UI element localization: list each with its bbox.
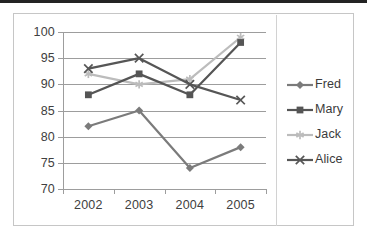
x-axis-tick [63,189,64,194]
x-axis-tick [165,189,166,194]
chart-screenshot: 100959085807570 2002200320042005 FredMar… [0,0,367,238]
chart-frame: 100959085807570 2002200320042005 FredMar… [13,13,354,226]
y-axis-tick-label: 85 [41,105,55,117]
legend-marker-icon [286,103,314,117]
y-axis-tick-labels: 100959085807570 [14,32,55,189]
series-line-mary [88,42,240,94]
legend-label: Mary [315,103,343,116]
legend-label: Jack [315,128,341,141]
plot-wrapper: 100959085807570 2002200320042005 FredMar… [14,14,355,227]
data-series-layer [63,32,266,189]
data-point-marker-diamond [84,122,92,130]
legend-label: Alice [315,153,343,166]
legend-item-mary[interactable]: Mary [286,97,352,122]
legend-item-fred[interactable]: Fred [286,72,352,97]
y-axis-tick-label: 100 [34,26,55,38]
x-axis-tick-labels: 2002200320042005 [63,198,266,216]
data-point-marker-square [186,91,193,98]
x-axis-tick-label: 2004 [176,198,205,212]
legend-item-alice[interactable]: Alice [286,147,352,172]
y-axis-tick-label: 90 [41,78,55,90]
y-axis-tick-label: 95 [41,52,55,64]
y-axis-tick-label: 70 [41,183,55,195]
y-axis-tick-label: 80 [41,131,55,143]
data-point-marker-square [237,39,244,46]
chart-legend: FredMaryJackAlice [286,72,352,172]
legend-marker-icon [286,78,314,92]
x-axis-tick [114,189,115,194]
x-axis-tick [266,189,267,194]
legend-marker-icon [286,128,314,142]
x-axis-tick-label: 2005 [226,198,255,212]
y-axis-tick-label: 75 [41,157,55,169]
x-axis-tick [215,189,216,194]
data-point-marker-square [85,91,92,98]
top-edge-band [0,0,367,3]
legend-item-jack[interactable]: Jack [286,122,352,147]
legend-marker-icon [286,153,314,167]
data-point-marker-square [136,70,143,77]
data-point-marker-square [297,106,304,113]
series-line-jack [88,37,240,84]
data-point-marker-diamond [296,81,304,89]
legend-label: Fred [315,78,341,91]
x-axis-tick-label: 2002 [74,198,103,212]
series-line-fred [88,111,240,169]
data-point-marker-diamond [237,143,245,151]
x-axis-tick-label: 2003 [125,198,154,212]
x-axis-ticks [63,189,266,195]
legend-divider [276,15,277,226]
